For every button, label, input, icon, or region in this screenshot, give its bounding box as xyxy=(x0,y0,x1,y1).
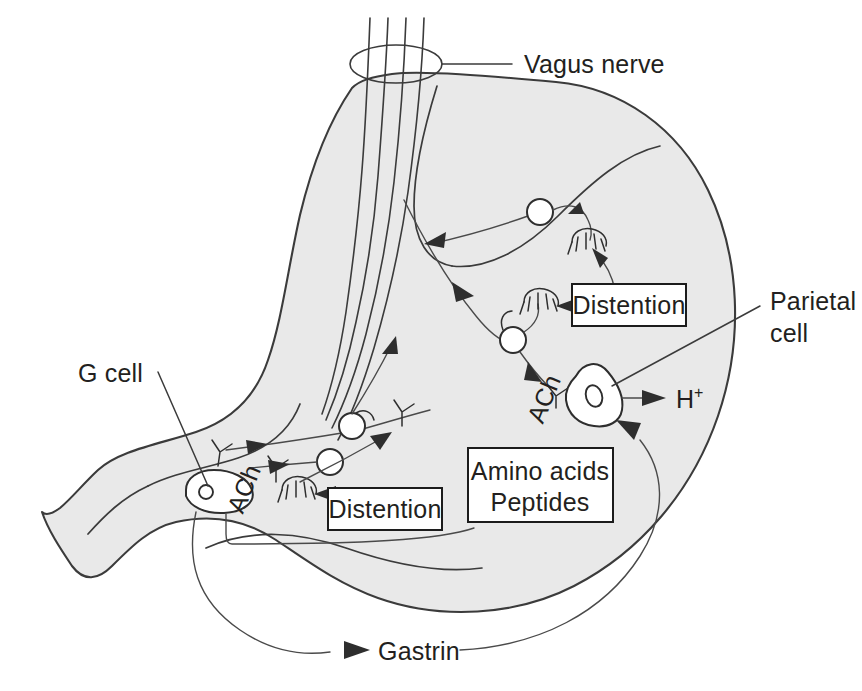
parietal-cell-label-line2: cell xyxy=(770,319,808,347)
gastrin-label: Gastrin xyxy=(378,637,460,665)
peptides-label: Peptides xyxy=(491,488,590,516)
arrowhead-gastrin xyxy=(344,641,370,659)
stomach-outline-group xyxy=(42,73,735,612)
stomach-diagram-canvas: Vagus nerve Parietal cell G cell Gastrin… xyxy=(0,0,862,691)
neuron-mid xyxy=(500,327,526,353)
hydrogen-ion-symbol: H xyxy=(676,385,694,413)
vagus-nerve-label: Vagus nerve xyxy=(524,50,665,78)
g-cell-label: G cell xyxy=(78,359,143,387)
distention-upper-label: Distention xyxy=(572,291,685,319)
stomach-body-shape xyxy=(42,73,735,612)
gastric-secretion-diagram: Vagus nerve Parietal cell G cell Gastrin… xyxy=(0,0,862,691)
amino-acids-label: Amino acids xyxy=(471,457,609,485)
neuron-antral-upper xyxy=(339,413,365,439)
distention-lower-label: Distention xyxy=(328,495,441,523)
neuron-fundus xyxy=(527,199,553,225)
g-cell-nucleus xyxy=(199,485,213,499)
hydrogen-ion-charge: + xyxy=(694,384,703,401)
parietal-cell-label-line1: Parietal xyxy=(770,287,856,315)
